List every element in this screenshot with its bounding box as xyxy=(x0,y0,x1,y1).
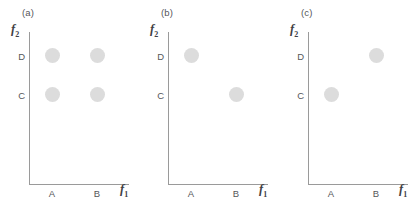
x-axis-title-a: f1 xyxy=(120,182,128,199)
data-point xyxy=(90,87,105,102)
x-tick-label-b-a: B xyxy=(90,188,104,199)
panel-label-a: (a) xyxy=(22,7,34,18)
data-point xyxy=(369,48,384,63)
x-axis-title-sub-a: 1 xyxy=(124,190,128,199)
x-axis-title-b: f1 xyxy=(259,182,267,199)
x-axis-title-sub-b: 1 xyxy=(263,190,267,199)
x-axis-line-a xyxy=(29,184,129,185)
figure-scatter-panels: (a) f2 f1 D C A B (b) f2 f1 D C A B (c) … xyxy=(0,0,419,210)
data-point xyxy=(324,87,339,102)
x-tick-label-a-b: A xyxy=(184,188,198,199)
panel-label-b: (b) xyxy=(161,7,173,18)
data-point xyxy=(45,87,60,102)
data-point xyxy=(229,87,244,102)
data-point xyxy=(45,48,60,63)
y-tick-label-c-b: C xyxy=(153,90,164,101)
panel-label-c: (c) xyxy=(301,7,313,18)
y-tick-label-d-c: D xyxy=(293,51,304,62)
y-axis-line-c xyxy=(308,32,309,185)
panel-c: (c) f2 f1 D C A B xyxy=(279,0,419,210)
x-tick-label-b-b: B xyxy=(229,188,243,199)
data-point xyxy=(184,48,199,63)
y-tick-label-d-b: D xyxy=(153,51,164,62)
data-point xyxy=(90,48,105,63)
y-axis-line-b xyxy=(168,32,169,185)
x-axis-title-sub-c: 1 xyxy=(403,190,407,199)
x-axis-line-b xyxy=(168,184,268,185)
y-axis-title-sub-b: 2 xyxy=(154,30,158,39)
x-axis-title-c: f1 xyxy=(399,182,407,199)
y-tick-label-c-c: C xyxy=(293,90,304,101)
y-axis-title-sub-c: 2 xyxy=(294,30,298,39)
y-axis-title-c: f2 xyxy=(290,22,298,39)
x-tick-label-a-c: A xyxy=(324,188,338,199)
panel-b: (b) f2 f1 D C A B xyxy=(139,0,279,210)
x-axis-line-c xyxy=(308,184,408,185)
y-tick-label-c-a: C xyxy=(14,90,25,101)
y-axis-title-b: f2 xyxy=(150,22,158,39)
y-axis-title-a: f2 xyxy=(11,22,19,39)
y-tick-label-d-a: D xyxy=(14,51,25,62)
panel-a: (a) f2 f1 D C A B xyxy=(0,0,140,210)
y-axis-line-a xyxy=(29,32,30,185)
x-tick-label-a-a: A xyxy=(45,188,59,199)
x-tick-label-b-c: B xyxy=(369,188,383,199)
y-axis-title-sub-a: 2 xyxy=(15,30,19,39)
